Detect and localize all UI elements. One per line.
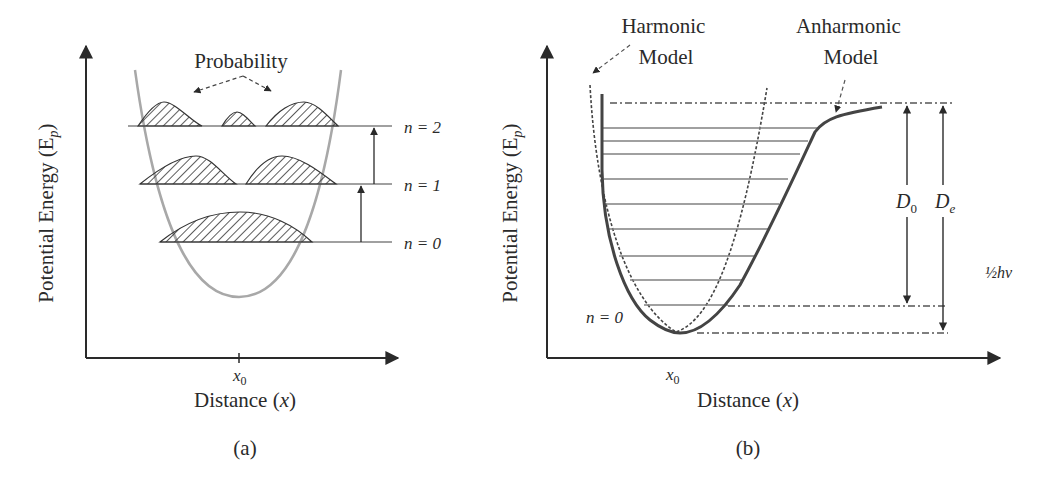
x0-tick-label: x0 (665, 365, 680, 387)
level-label-n0: n = 0 (404, 234, 441, 253)
x0-tick-label: x0 (232, 366, 247, 388)
panel-b: Harmonic Model Anharmonic Model n = 0 D0… (498, 14, 1013, 460)
ground-level-label: n = 0 (586, 308, 623, 327)
probability-label: Probability (194, 49, 288, 73)
level-label-n2: n = 2 (404, 118, 441, 137)
level-label-n1: n = 1 (404, 176, 441, 195)
probability-pointer-left (194, 76, 243, 92)
de-label: De (934, 190, 955, 216)
panel-a-caption: (a) (233, 436, 256, 460)
zero-point-energy-label: ½hν (985, 264, 1013, 281)
d0-label: D0 (895, 190, 917, 216)
x-axis-label: Distance (x) (194, 388, 296, 412)
harmonic-label: Harmonic Model (621, 14, 710, 69)
anharmonic-label: Anharmonic Model (796, 14, 906, 69)
x-axis-label: Distance (x) (697, 388, 799, 412)
y-axis-label: Potential Energy (Ep) (498, 123, 525, 302)
probability-lobe-n2-mid (222, 112, 255, 126)
probability-lobe-n0 (160, 212, 312, 242)
panel-b-caption: (b) (736, 436, 761, 460)
probability-lobe-n2-right (266, 102, 338, 126)
harmonic-pointer (593, 45, 630, 73)
probability-pointer-right (243, 76, 271, 91)
y-axis-label: Potential Energy (Ep) (34, 123, 61, 302)
vibrational-levels (603, 128, 818, 305)
figure-canvas: Probability n = 2 n = 1 n = 0 Potential … (0, 0, 1046, 482)
panel-a: Probability n = 2 n = 1 n = 0 Potential … (34, 46, 441, 460)
anharmonic-morse-curve (602, 94, 882, 333)
anharmonic-pointer (836, 80, 845, 112)
probability-lobe-n2-left (138, 102, 202, 126)
harmonic-model-curve (590, 85, 767, 332)
